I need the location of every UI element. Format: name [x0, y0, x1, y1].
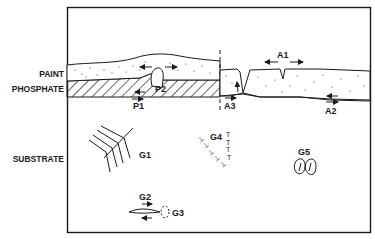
paint-layer-right-a: [220, 69, 243, 96]
paint-label: PAINT: [39, 69, 65, 79]
g1-grain-boundary: [89, 126, 133, 172]
g2-inclusion: [129, 204, 160, 218]
svg-text:T: T: [227, 154, 232, 161]
g2-label: G2: [139, 192, 151, 202]
phosphate-label: PHOSPHATE: [12, 84, 65, 94]
left-coating-section: [67, 54, 220, 99]
g3-label: G3: [172, 208, 184, 218]
a2-label: A2: [325, 106, 337, 116]
g5-label: G5: [298, 147, 310, 157]
corrosion-cross-section-diagram: ⊥ ⊥ ⊥ ⊥ ⊥ T T T T PAINT PHOSPHATE SUBSTR…: [0, 0, 375, 239]
diagram-frame: [68, 8, 371, 233]
svg-text:⊥: ⊥: [218, 160, 227, 169]
svg-text:T: T: [226, 131, 231, 138]
svg-text:T: T: [226, 139, 231, 146]
g1-label: G1: [139, 150, 151, 160]
g5-grains: [294, 159, 316, 175]
a1-label: A1: [277, 50, 289, 60]
svg-text:T: T: [226, 146, 231, 153]
g3-void: [161, 206, 169, 218]
a3-label: A3: [224, 101, 236, 111]
substrate-label: SUBSTRATE: [13, 154, 65, 164]
paint-layer-right-b: [243, 69, 370, 100]
p1-label: P1: [133, 101, 144, 111]
right-coating-section: [220, 62, 370, 102]
p2-label: P2: [155, 84, 166, 94]
g4-label: G4: [210, 132, 222, 142]
